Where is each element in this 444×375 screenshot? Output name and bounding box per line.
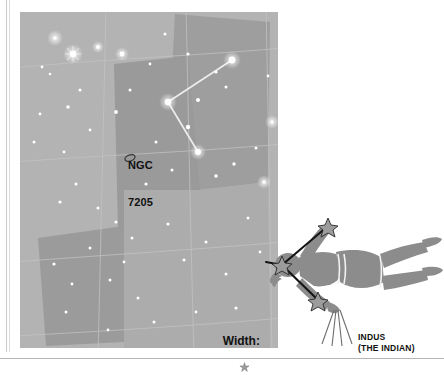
indus-caption-line2: (THE INDIAN) bbox=[358, 343, 415, 354]
ngc-7205-label: NGC 7205 bbox=[128, 134, 153, 220]
indus-caption-line1: INDUS bbox=[358, 332, 415, 343]
indus-figure-canvas bbox=[262, 210, 444, 350]
indus-caption: INDUS (THE INDIAN) bbox=[358, 332, 415, 354]
region-lower-left bbox=[38, 226, 124, 346]
indus-body-silhouette bbox=[270, 226, 443, 313]
ngc-7205-label-line1: NGC bbox=[128, 159, 153, 171]
chart-width-legend-label: Width: bbox=[223, 334, 260, 348]
star-glyph-icon-svg bbox=[239, 362, 250, 373]
star-glyph-icon bbox=[226, 349, 250, 375]
ngc-7205-label-line2: 7205 bbox=[128, 196, 153, 208]
indus-figure bbox=[262, 210, 444, 350]
page-margin-rule-inner bbox=[9, 0, 10, 352]
page-margin-rule-outer bbox=[6, 0, 7, 352]
chart-width-legend: Width: bbox=[216, 322, 260, 375]
arrow-shafts bbox=[322, 310, 352, 346]
